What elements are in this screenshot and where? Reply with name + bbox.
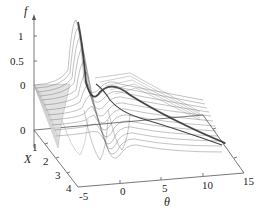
z-tick-0: 0 bbox=[20, 80, 26, 91]
x-tick-5: 5 bbox=[162, 183, 168, 194]
x-tick-0: 0 bbox=[120, 186, 126, 197]
y-tick-2: 2 bbox=[43, 156, 49, 167]
x-tick-15: 15 bbox=[243, 176, 254, 187]
x-tick-10: 10 bbox=[202, 180, 213, 191]
floor-zero-label: 0 bbox=[20, 125, 26, 136]
y-tick-4: 4 bbox=[66, 183, 72, 194]
z-tick-1: 1 bbox=[18, 31, 24, 42]
x-axis-label: θ bbox=[164, 196, 170, 208]
y-tick-3: 3 bbox=[55, 170, 61, 181]
surface-plot bbox=[0, 0, 268, 215]
z-tick-0-5: 0.5 bbox=[10, 56, 24, 67]
z-axis-label: f bbox=[24, 5, 27, 17]
z-axis-arrow bbox=[32, 14, 36, 20]
y-tick-1: 1 bbox=[32, 142, 38, 153]
x-tick-minus-5: -5 bbox=[79, 191, 88, 202]
surface-mesh bbox=[34, 20, 225, 160]
y-axis-label: X bbox=[24, 153, 31, 165]
